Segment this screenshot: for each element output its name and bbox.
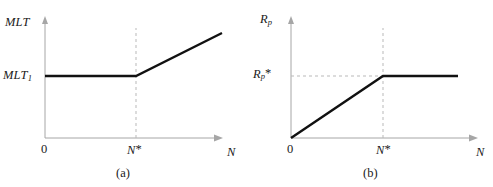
x-tick-label-nstar-a: N* (127, 143, 142, 156)
plot-canvas-a (0, 0, 246, 187)
y-axis-label-b-sub: p (268, 17, 272, 27)
x-tick-label-nstar-b-base: N (376, 143, 385, 157)
y-axis-arrowhead-b (288, 16, 294, 24)
y-axis-arrowhead-a (42, 16, 48, 24)
y-tick-label-rpstar: Rp* (253, 67, 272, 81)
origin-label-a: 0 (41, 143, 47, 156)
chart-panel-a: MLT MLT1 0 N* N (a) (0, 0, 246, 187)
panel-caption-a: (a) (116, 167, 130, 180)
x-axis-label-b: N (476, 146, 485, 159)
x-axis-label-a: N (227, 146, 236, 159)
y-tick-label-mlt1-sub: 1 (28, 73, 32, 83)
y-tick-label-rpstar-base: R (253, 67, 261, 81)
y-tick-label-mlt1-base: MLT (3, 68, 28, 82)
origin-label-b: 0 (287, 143, 293, 156)
data-line-mlt (45, 33, 222, 76)
x-axis-arrowhead-b (469, 135, 478, 142)
chart-panel-b: Rp Rp* 0 N* N (b) (246, 0, 493, 187)
y-axis-label-a: MLT (5, 16, 30, 29)
x-tick-label-nstar-b: N* (376, 143, 391, 156)
y-axis-label-b-base: R (260, 12, 268, 26)
x-tick-label-nstar-a-base: N (127, 143, 136, 157)
figure-root: MLT MLT1 0 N* N (a) Rp Rp* 0 N* N (b) (0, 0, 493, 187)
x-axis-arrowhead-a (214, 135, 223, 142)
y-tick-label-rpstar-star: * (265, 66, 271, 80)
x-tick-label-nstar-a-star: * (136, 142, 142, 156)
plot-canvas-b (246, 0, 493, 187)
data-line-rp (291, 76, 458, 138)
panel-caption-b: (b) (363, 167, 378, 180)
x-tick-label-nstar-b-star: * (385, 142, 391, 156)
y-axis-label-b: Rp (260, 13, 272, 26)
y-tick-label-mlt1: MLT1 (3, 69, 32, 82)
